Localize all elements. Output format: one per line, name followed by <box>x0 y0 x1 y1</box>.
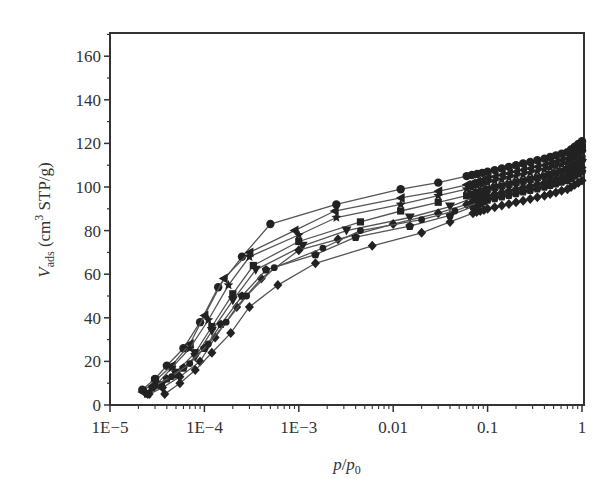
y-tick-label: 120 <box>76 134 102 153</box>
y-axis-ticks: 020406080100120140160 <box>76 34 112 415</box>
y-tick-label: 20 <box>84 352 101 371</box>
y-tick-label: 40 <box>84 309 101 328</box>
y-axis-title: Vads (cm3 STP/g) <box>32 162 57 278</box>
x-tick-label: 1E−3 <box>280 418 317 437</box>
y-tick-label: 140 <box>76 91 102 110</box>
x-tick-label: 0.01 <box>378 418 408 437</box>
x-axis-ticks: 1E−51E−41E−30.010.11 <box>92 404 587 437</box>
x-tick-label: 1E−4 <box>186 418 223 437</box>
series-series-9 <box>160 175 586 399</box>
x-tick-label: 1 <box>578 418 587 437</box>
y-tick-label: 0 <box>93 396 102 415</box>
y-tick-label: 100 <box>76 178 102 197</box>
x-tick-label: 0.1 <box>477 418 498 437</box>
isotherm-chart: 020406080100120140160 1E−51E−41E−30.010.… <box>0 0 615 492</box>
x-axis-title: p/p0 <box>332 455 361 477</box>
y-tick-label: 60 <box>84 265 101 284</box>
y-tick-label: 80 <box>84 222 101 241</box>
data-series <box>137 137 587 399</box>
x-tick-label: 1E−5 <box>92 418 129 437</box>
y-tick-label: 160 <box>76 47 102 66</box>
